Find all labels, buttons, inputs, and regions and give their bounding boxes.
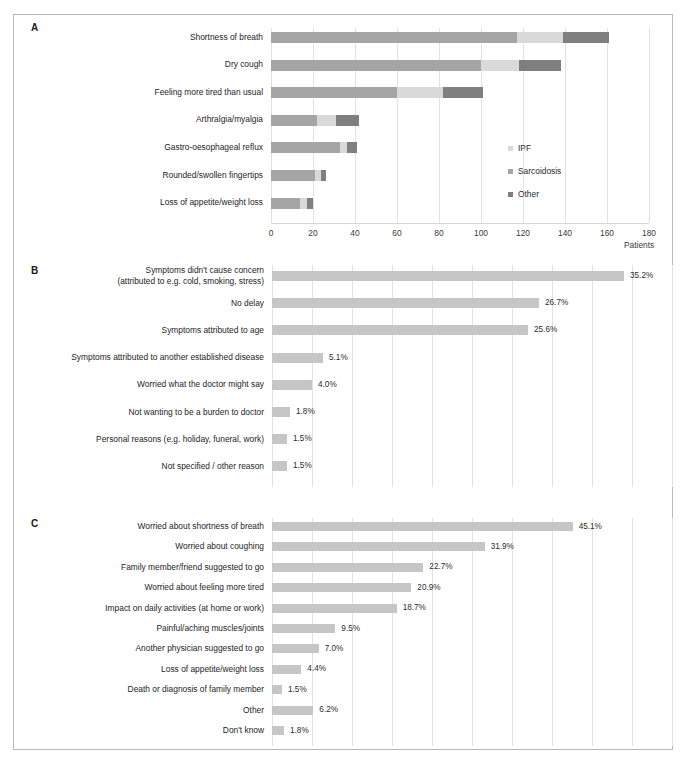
- category-label: Other: [22, 705, 264, 716]
- bar-segment-sarcoidosis: [271, 198, 300, 209]
- bar: [272, 644, 319, 653]
- category-label: Loss of appetite/weight loss: [60, 197, 263, 208]
- legend-label-sarcoidosis: Sarcoidosis: [518, 166, 561, 176]
- bar: [272, 407, 290, 417]
- stacked-bar: [271, 198, 313, 209]
- bar: [272, 353, 323, 363]
- bar-fill: [272, 706, 313, 715]
- bar-fill: [272, 461, 287, 471]
- bar-segment-sarcoidosis: [271, 142, 340, 153]
- stacked-bar: [271, 115, 359, 126]
- bar: [272, 522, 573, 531]
- bar-fill: [272, 325, 528, 335]
- legend-item-sarcoidosis: Sarcoidosis: [508, 166, 561, 176]
- bar-fill: [272, 522, 573, 531]
- axis-tick: 180: [642, 228, 656, 238]
- axis-tick: 160: [600, 228, 614, 238]
- bar-fill: [272, 380, 312, 390]
- category-label: Death or diagnosis of family member: [22, 684, 264, 695]
- bar-segment-sarcoidosis: [271, 170, 315, 181]
- panel-a-plot: [271, 28, 649, 223]
- bar-segment-sarcoidosis: [271, 115, 317, 126]
- bar-fill: [272, 407, 290, 417]
- bar-segment-sarcoidosis: [271, 60, 481, 71]
- category-label: Feeling more tired than usual: [60, 87, 263, 98]
- panel-b-bars: 35.2%26.7%25.6%5.1%4.0%1.8%1.5%1.5%: [272, 265, 672, 487]
- bar-value-label: 35.2%: [630, 271, 653, 280]
- bar: [272, 298, 539, 308]
- panel-b: B 35.2%26.7%25.6%5.1%4.0%1.8%1.5%1.5% Sy…: [0, 262, 686, 497]
- bar-fill: [272, 583, 411, 592]
- panel-a-letter: A: [31, 22, 38, 33]
- bar-segment-ipf: [481, 60, 519, 71]
- category-label: Personal reasons (e.g. holiday, funeral,…: [22, 434, 264, 445]
- panel-c-plot: 45.1%31.9%22.7%20.9%18.7%9.5%7.0%4.4%1.5…: [272, 518, 672, 746]
- category-label: Family member/friend suggested to go: [22, 562, 264, 573]
- bar-fill: [272, 271, 624, 281]
- bar: [272, 271, 624, 281]
- legend-label-ipf: IPF: [518, 143, 531, 153]
- bar-value-label: 7.0%: [325, 644, 344, 653]
- legend-swatch-sarcoidosis: [508, 169, 513, 174]
- bar: [272, 434, 287, 444]
- panel-a: A Shortness of breathDry coughFeeling mo…: [0, 0, 686, 255]
- bar: [272, 542, 485, 551]
- category-label: Not wanting to be a burden to doctor: [22, 407, 264, 418]
- bar-fill: [272, 298, 539, 308]
- bar-segment-other: [443, 87, 483, 98]
- bar-value-label: 1.5%: [293, 461, 312, 470]
- gridline: [649, 28, 650, 223]
- stacked-bar: [271, 87, 483, 98]
- panel-a-axis-title: Patients: [624, 240, 654, 250]
- bar-fill: [272, 685, 282, 694]
- panel-b-plot: 35.2%26.7%25.6%5.1%4.0%1.8%1.5%1.5%: [272, 265, 672, 487]
- category-label: Symptoms didn't cause concern (attribute…: [22, 265, 264, 287]
- axis-tick: 100: [474, 228, 488, 238]
- bar: [272, 461, 287, 471]
- stacked-bar: [271, 60, 561, 71]
- bar-fill: [272, 726, 284, 735]
- bar-fill: [272, 563, 423, 572]
- bar-segment-ipf: [517, 32, 563, 43]
- figure-root: A Shortness of breathDry coughFeeling mo…: [0, 0, 686, 765]
- bar-value-label: 20.9%: [417, 583, 440, 592]
- bar-value-label: 5.1%: [329, 353, 348, 362]
- bar-fill: [272, 665, 301, 674]
- category-label: Impact on daily activities (at home or w…: [22, 603, 264, 614]
- legend-item-other: Other: [508, 189, 539, 199]
- bar-value-label: 22.7%: [429, 562, 452, 571]
- bar-value-label: 9.5%: [341, 624, 360, 633]
- bar-segment-ipf: [317, 115, 336, 126]
- bar: [272, 380, 312, 390]
- category-label: Dry cough: [60, 59, 263, 70]
- category-label: Shortness of breath: [60, 32, 263, 43]
- bar-value-label: 4.4%: [307, 664, 326, 673]
- category-label: Don't know: [22, 725, 264, 736]
- bar-value-label: 1.5%: [293, 434, 312, 443]
- bar-value-label: 25.6%: [534, 325, 557, 334]
- axis-tick: 80: [434, 228, 443, 238]
- bar-fill: [272, 434, 287, 444]
- bar: [272, 604, 397, 613]
- bar-segment-other: [519, 60, 561, 71]
- category-label: Worried about shortness of breath: [22, 521, 264, 532]
- category-label: Worried about coughing: [22, 541, 264, 552]
- bar-value-label: 31.9%: [491, 542, 514, 551]
- bar-fill: [272, 624, 335, 633]
- bar-segment-ipf: [397, 87, 443, 98]
- legend-label-other: Other: [518, 189, 539, 199]
- bar-segment-other: [321, 170, 325, 181]
- axis-tick: 60: [392, 228, 401, 238]
- category-label: Gastro-oesophageal reflux: [60, 142, 263, 153]
- category-label: Rounded/swollen fingertips: [60, 170, 263, 181]
- bar-value-label: 1.5%: [288, 685, 307, 694]
- axis-tick: 0: [269, 228, 274, 238]
- legend-item-ipf: IPF: [508, 143, 531, 153]
- bar-fill: [272, 644, 319, 653]
- stacked-bar: [271, 170, 326, 181]
- category-label: Symptoms attributed to another establish…: [22, 352, 264, 363]
- category-label: Worried what the doctor might say: [22, 379, 264, 390]
- legend-swatch-ipf: [508, 146, 513, 151]
- bar-segment-other: [336, 115, 359, 126]
- bar-value-label: 18.7%: [403, 603, 426, 612]
